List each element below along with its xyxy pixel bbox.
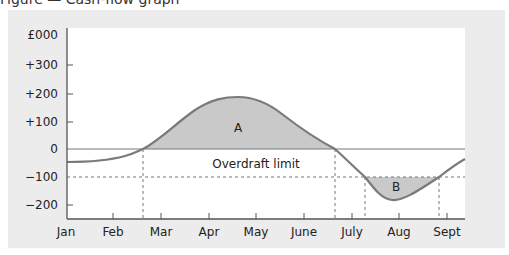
x-tick-july: July	[340, 225, 363, 239]
y-tick-200: +200	[25, 87, 58, 101]
y-label-unit: £000	[27, 28, 58, 42]
y-tick-0: 0	[50, 142, 58, 156]
y-tick-300: +300	[25, 58, 58, 72]
region-b-label: B	[392, 180, 400, 194]
x-tick-may: May	[244, 225, 269, 239]
y-tick-minus-100: −100	[25, 170, 58, 184]
x-tick-mar: Mar	[150, 225, 173, 239]
x-tick-jan: Jan	[56, 225, 76, 239]
x-tick-feb: Feb	[102, 225, 123, 239]
x-tick-june: June	[290, 225, 317, 239]
x-tick-sept: Sept	[433, 225, 461, 239]
region-a-label: A	[234, 121, 243, 135]
y-tick-minus-200: −200	[25, 198, 58, 212]
overdraft-limit-label: Overdraft limit	[212, 157, 300, 171]
x-tick-apr: Apr	[199, 225, 220, 239]
y-tick-100: +100	[25, 115, 58, 129]
x-tick-aug: Aug	[387, 225, 410, 239]
cash-flow-chart: £000 +300 +200 +100 0 −100 −200 Jan Feb …	[0, 0, 509, 255]
